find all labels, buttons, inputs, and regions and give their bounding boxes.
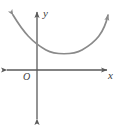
origin-label: O bbox=[23, 71, 30, 82]
x-axis-label: x bbox=[107, 69, 113, 81]
parabola-figure: y x O bbox=[0, 0, 119, 125]
y-axis-label: y bbox=[42, 7, 48, 19]
parabola-curve bbox=[13, 15, 108, 54]
coordinate-plane-svg: y x O bbox=[0, 0, 119, 125]
